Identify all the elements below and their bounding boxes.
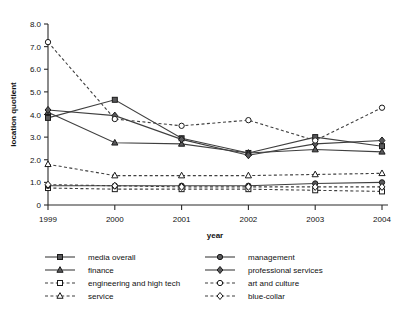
series-line [48,188,382,191]
legend-label: blue-collar [248,292,285,301]
series-line [48,100,382,153]
data-point [245,172,251,178]
series-service [45,161,385,178]
legend-marker-square-icon [58,255,63,260]
legend-item-blue-collar[interactable]: blue-collar [205,292,285,301]
legend-item-engineering-and-high-tech[interactable]: engineering and high tech [45,279,180,288]
chart-container: 01.02.03.04.05.06.07.08.0199920002001200… [0,0,400,310]
data-point [179,123,184,128]
chart-legend: media overallfinanceengineering and high… [45,253,323,301]
x-axis-tick-label: 2001 [173,215,191,224]
legend-item-finance[interactable]: finance [45,266,114,275]
series-professional-services [45,106,385,158]
chart-series-layer [45,39,385,193]
y-axis-tick-label: 2.0 [30,156,42,165]
y-axis-tick-label: 5.0 [30,88,42,97]
data-point [112,97,117,102]
legend-item-management[interactable]: management [205,253,295,262]
legend-label: service [88,292,114,301]
y-axis-tick-label: 7.0 [30,43,42,52]
data-point [379,170,385,176]
legend-item-professional-services[interactable]: professional services [205,266,323,275]
legend-label: media overall [88,253,136,262]
legend-marker-circle-icon [217,254,222,259]
x-axis-title: year [207,231,223,240]
y-axis-tick-label: 4.0 [30,111,42,120]
series-line [48,42,382,140]
y-axis-tick-label: 1.0 [30,178,42,187]
legend-marker-circle-icon [217,280,222,285]
legend-item-service[interactable]: service [45,292,114,301]
y-axis-title: location quotient [9,82,18,147]
chart-axes: 01.02.03.04.05.06.07.08.0199920002001200… [30,20,392,224]
legend-label: art and culture [248,279,300,288]
data-point [246,117,251,122]
data-point [112,116,117,121]
series-finance [45,109,385,155]
series-art-and-culture [45,39,384,143]
location-quotient-line-chart: 01.02.03.04.05.06.07.08.0199920002001200… [0,0,400,310]
legend-label: finance [88,266,114,275]
legend-label: engineering and high tech [88,279,180,288]
data-point [45,39,50,44]
x-axis-tick-label: 2003 [306,215,324,224]
legend-marker-diamond-icon [217,292,223,299]
data-point [46,115,51,120]
y-axis-tick-label: 8.0 [30,20,42,29]
legend-label: professional services [248,266,323,275]
x-axis-tick-label: 1999 [39,215,57,224]
x-axis-tick-label: 2004 [373,215,391,224]
y-axis-tick-label: 6.0 [30,65,42,74]
series-line [48,164,382,175]
series-management [45,180,384,189]
y-axis-tick-label: 3.0 [30,133,42,142]
data-point [45,161,51,167]
legend-marker-diamond-icon [217,266,223,273]
x-axis-tick-label: 2002 [240,215,258,224]
data-point [379,137,385,144]
legend-item-art-and-culture[interactable]: art and culture [205,279,300,288]
y-axis-tick-label: 0 [37,201,42,210]
legend-marker-square-icon [58,281,63,286]
data-point [379,105,384,110]
series-engineering-and-high-tech [46,186,385,194]
legend-label: management [248,253,295,262]
data-point [313,138,318,143]
legend-item-media-overall[interactable]: media overall [45,253,136,262]
series-media-overall [46,97,385,155]
x-axis-tick-label: 2000 [106,215,124,224]
